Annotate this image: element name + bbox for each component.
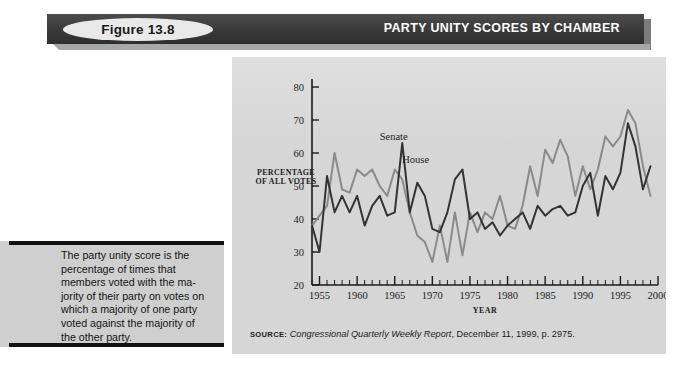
source-rest: , December 11, 1999, p. 2975.: [451, 329, 574, 339]
y-tick-label: 30: [294, 247, 305, 258]
x-tick-label: 1985: [535, 290, 556, 301]
source-note: SOURCE: Congressional Quarterly Weekly R…: [250, 329, 575, 339]
series-label-house: House: [402, 154, 429, 165]
y-axis-title-line2: OF ALL VOTES: [256, 177, 317, 186]
x-tick-label: 1955: [309, 290, 330, 301]
figure-title: PARTY UNITY SCORES BY CHAMBER: [384, 21, 620, 35]
figure-page: Figure 13.8 PARTY UNITY SCORES BY CHAMBE…: [0, 0, 692, 377]
y-tick-label: 40: [294, 214, 305, 225]
caption-rule-top: [9, 241, 224, 245]
chart-panel: 20304050607080PERCENTAGEOF ALL VOTES1955…: [232, 57, 666, 354]
figure-number-label: Figure 13.8: [101, 22, 174, 37]
series-label-senate: Senate: [380, 131, 408, 142]
x-tick-label: 1990: [572, 290, 593, 301]
party-unity-line-chart: 20304050607080PERCENTAGEOF ALL VOTES1955…: [232, 57, 666, 354]
y-axis-title-line1: PERCENTAGE: [257, 168, 315, 177]
figure-header: Figure 13.8 PARTY UNITY SCORES BY CHAMBE…: [47, 14, 654, 50]
y-tick-label: 60: [294, 148, 305, 159]
y-tick-label: 70: [294, 115, 305, 126]
y-tick-label: 20: [294, 280, 305, 291]
x-tick-label: 1960: [347, 290, 368, 301]
source-publication: Congressional Quarterly Weekly Report: [290, 329, 452, 339]
x-axis-title: YEAR: [473, 306, 497, 315]
series-line-senate: [312, 123, 650, 252]
source-label: SOURCE:: [250, 330, 287, 339]
caption-text: The party unity score is the percentage …: [61, 249, 211, 344]
series-line-house: [312, 110, 650, 262]
figure-number-badge: Figure 13.8: [63, 18, 213, 41]
x-tick-label: 2000: [648, 290, 667, 301]
header-bar: Figure 13.8 PARTY UNITY SCORES BY CHAMBE…: [47, 14, 644, 44]
x-tick-label: 1970: [422, 290, 443, 301]
x-tick-label: 1965: [384, 290, 405, 301]
x-tick-label: 1975: [459, 290, 480, 301]
y-tick-label: 80: [294, 82, 305, 93]
x-tick-label: 1980: [497, 290, 518, 301]
x-tick-label: 1995: [610, 290, 631, 301]
header-shadow-bottom: [53, 44, 650, 50]
